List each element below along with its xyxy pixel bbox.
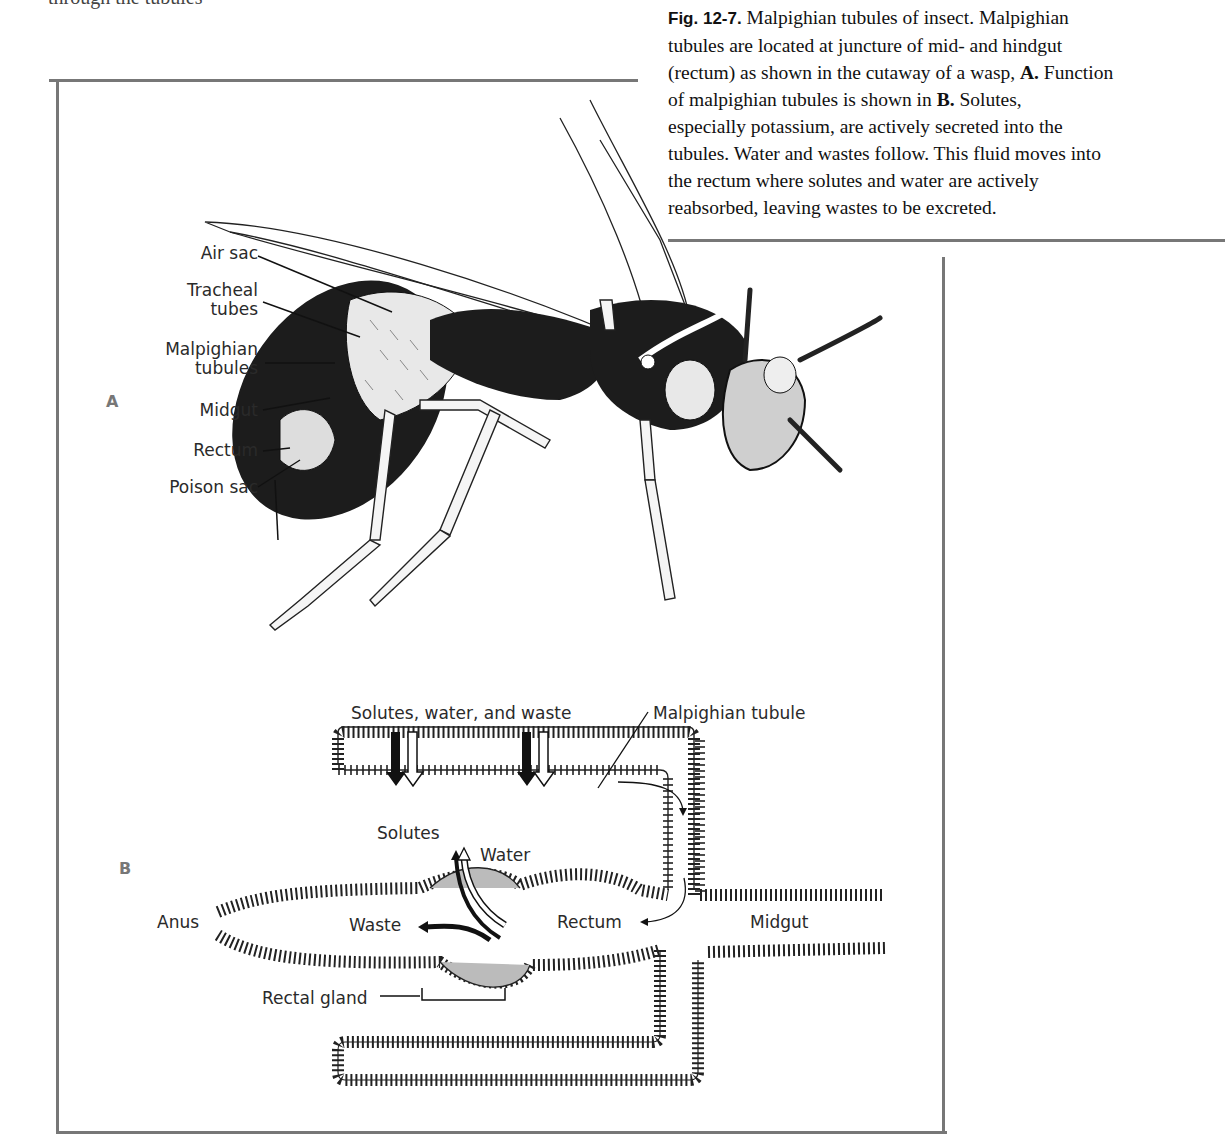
label-tracheal-tubes: Trachealtubes bbox=[120, 281, 258, 319]
label-water: Water bbox=[480, 845, 530, 865]
panel-a-letter: A bbox=[106, 392, 118, 411]
label-midgut-b: Midgut bbox=[750, 912, 808, 932]
inflow-arrow-icon bbox=[386, 732, 554, 786]
label-rectum: Rectum bbox=[120, 441, 258, 460]
label-anus: Anus bbox=[157, 912, 199, 932]
label-poison-sac: Poison sac bbox=[100, 478, 258, 497]
label-air-sac: Air sac bbox=[120, 244, 258, 263]
label-rectum-b: Rectum bbox=[557, 912, 622, 932]
label-solutes-water-waste: Solutes, water, and waste bbox=[351, 703, 571, 723]
label-malpighian-tubules: Malpighiantubules bbox=[100, 340, 258, 378]
label-solutes: Solutes bbox=[377, 823, 440, 843]
wasp-cutaway-illustration bbox=[0, 0, 1225, 1148]
label-midgut: Midgut bbox=[120, 401, 258, 420]
malpighian-tubule-diagram bbox=[218, 712, 885, 1080]
panel-b-letter: B bbox=[119, 859, 131, 878]
label-waste: Waste bbox=[349, 915, 401, 935]
label-malpighian-tubule: Malpighian tubule bbox=[653, 703, 805, 723]
label-rectal-gland: Rectal gland bbox=[262, 988, 368, 1008]
